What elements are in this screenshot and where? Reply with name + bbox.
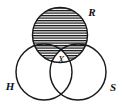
set-label-r: R <box>87 6 95 18</box>
region-label-x: X <box>57 54 65 65</box>
set-label-s: S <box>110 81 116 93</box>
set-label-h: H <box>5 80 15 92</box>
venn-diagram-canvas: R H S X <box>0 0 123 110</box>
venn-diagram-figure: R H S X <box>0 0 123 110</box>
